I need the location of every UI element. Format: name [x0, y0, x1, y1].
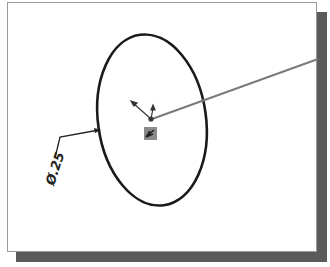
origin-icon — [144, 127, 157, 140]
sketch-canvas: Ø.25 — [0, 0, 330, 267]
coordinate-triad-icon — [131, 101, 155, 121]
axis-line[interactable] — [152, 59, 318, 119]
dimension-label[interactable]: Ø.25 — [42, 150, 67, 188]
